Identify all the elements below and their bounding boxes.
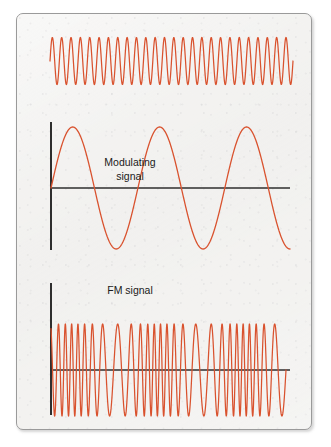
fm-waveform xyxy=(51,324,286,416)
figure-page: Modulating signal FM signal xyxy=(0,0,331,447)
fm-signal-label: FM signal xyxy=(107,284,153,296)
carrier-waveform xyxy=(50,38,293,85)
panel-carrier-wave xyxy=(50,38,293,85)
modulating-signal-label-line1: Modulating xyxy=(104,156,156,168)
waveform-plot: Modulating signal FM signal xyxy=(0,0,331,447)
modulating-signal-label-line2: signal xyxy=(116,170,143,182)
panel-modulating-signal: Modulating signal xyxy=(51,122,290,250)
panel-fm-signal: FM signal xyxy=(51,283,290,416)
